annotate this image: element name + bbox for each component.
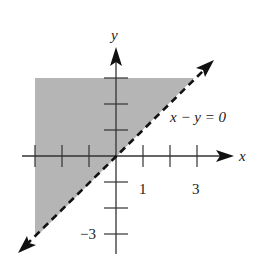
boundary-line-label: x − y = 0 [169, 109, 227, 125]
x-tick-label-3: 3 [192, 181, 200, 197]
boundary-arrow-lower-icon [18, 236, 36, 253]
x-axis-label: x [238, 148, 246, 164]
y-tick-label-neg3: −3 [80, 226, 96, 242]
y-axis-label: y [109, 27, 118, 43]
x-tick-label-1: 1 [139, 181, 147, 197]
inequality-graph: y x 1 3 −3 x − y = 0 [0, 0, 260, 280]
